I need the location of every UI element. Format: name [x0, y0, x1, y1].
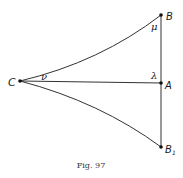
figure-caption: Fig. 97 [77, 161, 106, 170]
label-B1-subscript: 1 [172, 149, 176, 156]
angle-lambda-label: λ [150, 70, 157, 81]
label-C: C [8, 76, 16, 89]
point-A [159, 81, 163, 85]
angle-mu-label: μ [151, 21, 158, 32]
label-B1: B1 [165, 144, 176, 156]
angle-nu-label: ν [41, 71, 47, 82]
point-B [159, 13, 163, 17]
point-B1 [159, 145, 163, 149]
label-B: B [166, 11, 173, 22]
figure-97-diagram: C A B B1 μ λ ν Fig. 97 [0, 0, 183, 178]
curve-CB1 [20, 81, 161, 147]
point-C [18, 79, 22, 83]
label-A: A [164, 80, 172, 91]
